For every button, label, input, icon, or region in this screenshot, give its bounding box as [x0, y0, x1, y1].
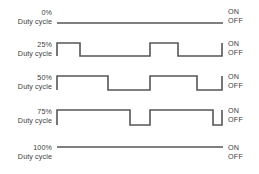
off-level-label: OFF	[228, 16, 258, 25]
waveform-75-percent	[0, 99, 259, 133]
waveform-row-75-percent: 75% Duty cycle ON OFF	[0, 99, 259, 133]
waveform-25-percent	[0, 33, 259, 65]
row-levels-0-percent: ON OFF	[228, 7, 258, 25]
waveform-row-0-percent: 0% Duty cycle ON OFF	[0, 0, 259, 32]
on-level-label: ON	[228, 39, 258, 48]
on-level-label: ON	[228, 72, 258, 81]
pwm-duty-cycle-diagram: 0% Duty cycle ON OFF 25% Duty cycle ON O…	[0, 0, 259, 174]
on-level-label: ON	[228, 7, 258, 16]
off-level-label: OFF	[228, 48, 258, 57]
waveform-50-percent	[0, 66, 259, 99]
waveform-0-percent	[0, 0, 259, 32]
off-level-label: OFF	[228, 152, 258, 161]
waveform-row-50-percent: 50% Duty cycle ON OFF	[0, 66, 259, 99]
on-level-label: ON	[228, 106, 258, 115]
waveform-row-100-percent: 100% Duty cycle ON OFF	[0, 136, 259, 172]
row-levels-50-percent: ON OFF	[228, 72, 258, 90]
waveform-100-percent	[0, 136, 259, 172]
waveform-row-25-percent: 25% Duty cycle ON OFF	[0, 33, 259, 65]
row-levels-75-percent: ON OFF	[228, 106, 258, 124]
off-level-label: OFF	[228, 81, 258, 90]
row-levels-25-percent: ON OFF	[228, 39, 258, 57]
off-level-label: OFF	[228, 115, 258, 124]
on-level-label: ON	[228, 143, 258, 152]
row-levels-100-percent: ON OFF	[228, 143, 258, 161]
